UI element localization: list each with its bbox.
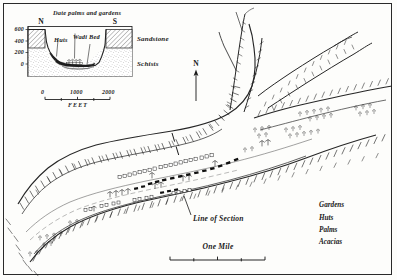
inset-direction-south: S bbox=[108, 18, 122, 26]
inset-title-label: Date palms and gardens bbox=[53, 10, 111, 17]
inset-axis-tick-600: 600 bbox=[10, 26, 24, 32]
hut-symbols bbox=[84, 154, 213, 212]
inset-scale-tick-2000: 2000 bbox=[102, 89, 115, 95]
hachure-southwest-tail bbox=[6, 219, 38, 276]
hachure-north-rim-inner bbox=[36, 105, 230, 194]
inset-label-schists: Schists bbox=[137, 61, 159, 69]
figure-map-wadi: N S Date palms and gardens Huts Wadi Bed… bbox=[0, 0, 397, 280]
inset-scale-unit: FEET bbox=[56, 102, 100, 108]
inset-scale-tick-1000: 1000 bbox=[70, 89, 83, 95]
north-arrow-label: N bbox=[189, 60, 203, 68]
legend-item-acacias[interactable]: Acacias bbox=[303, 236, 391, 248]
line-of-section-label: Line of Section bbox=[193, 215, 244, 223]
inset-scale-tick-0: 0 bbox=[41, 89, 44, 95]
inset-label-huts: Huts bbox=[54, 37, 68, 44]
north-arrow-icon bbox=[194, 70, 199, 102]
map-scale-bar bbox=[170, 257, 265, 262]
hachure-north-rim bbox=[20, 86, 240, 209]
inset-label-wadi-bed: Wadi Bed bbox=[73, 34, 97, 41]
inset-axis-tick-0: 0 bbox=[10, 61, 24, 67]
hachure-tributary-ne bbox=[264, 41, 353, 111]
acacia-cluster-mid bbox=[254, 126, 320, 138]
inset-axis-tick-200: 200 bbox=[10, 49, 24, 55]
map-scale-label: One Mile bbox=[178, 243, 258, 251]
inset-direction-north: N bbox=[34, 18, 48, 26]
legend: Gardens Huts Palms bbox=[303, 199, 391, 249]
inset-label-sandstone: Sandstone bbox=[137, 36, 169, 44]
inset-scale-bar bbox=[45, 97, 110, 101]
inset-axis-tick-400: 400 bbox=[10, 38, 24, 44]
acacia-cluster-upper-right bbox=[299, 104, 376, 121]
